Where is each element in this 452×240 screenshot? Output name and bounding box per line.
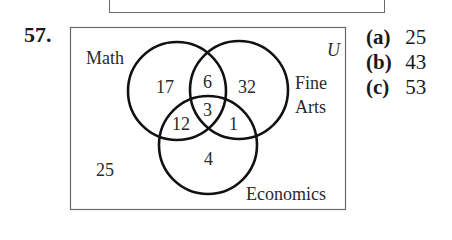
- answer-label: (a): [366, 25, 400, 50]
- region-math-finearts: 6: [203, 72, 212, 92]
- answer-a: (a) 25: [366, 25, 426, 50]
- answer-list: (a) 25 (b) 43 (c) 53: [366, 25, 426, 100]
- fine-arts-label-line1: Fine: [295, 73, 327, 93]
- answer-label: (c): [366, 75, 400, 100]
- answer-b: (b) 43: [366, 50, 426, 75]
- region-outside: 25: [96, 160, 114, 180]
- answer-label: (b): [366, 50, 400, 75]
- answer-value: 25: [405, 25, 426, 50]
- region-economics-only: 4: [204, 149, 213, 169]
- answer-value: 43: [405, 50, 426, 75]
- math-label: Math: [86, 48, 124, 68]
- answer-c: (c) 53: [366, 75, 426, 100]
- answer-value: 53: [405, 75, 426, 100]
- fine-arts-label-line2: Arts: [295, 97, 326, 117]
- region-finearts-only: 32: [238, 77, 256, 97]
- universe-label: U: [327, 40, 341, 60]
- economics-label: Economics: [246, 184, 326, 204]
- region-math-only: 17: [156, 77, 174, 97]
- region-finearts-economics: 1: [229, 114, 238, 134]
- region-all-three: 3: [203, 100, 212, 120]
- region-math-economics: 12: [172, 114, 190, 134]
